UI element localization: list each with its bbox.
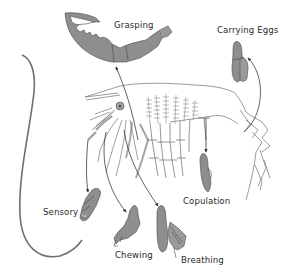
diagram-artwork bbox=[0, 0, 289, 276]
copulation-pleopod bbox=[200, 154, 211, 192]
antenna-flagellum bbox=[20, 55, 82, 257]
label-chewing: Chewing bbox=[115, 251, 153, 260]
appendage-diagram: Grasping Carrying Eggs Copulation Sensor… bbox=[0, 0, 289, 276]
chewing-mandible bbox=[114, 205, 140, 246]
label-breathing: Breathing bbox=[181, 256, 224, 265]
breathing-maxilliped bbox=[157, 206, 186, 258]
sensory-antenna-base bbox=[80, 188, 101, 220]
label-grasping: Grasping bbox=[114, 21, 153, 30]
label-copulation: Copulation bbox=[183, 197, 230, 206]
pointer-arrows bbox=[87, 58, 261, 212]
label-carrying-eggs: Carrying Eggs bbox=[217, 26, 278, 35]
egg-carrying-swimmeret bbox=[232, 42, 248, 82]
label-sensory: Sensory bbox=[43, 208, 78, 217]
shrimp-body bbox=[85, 83, 270, 200]
